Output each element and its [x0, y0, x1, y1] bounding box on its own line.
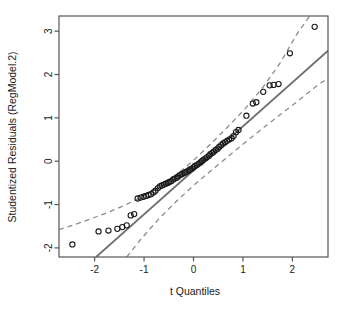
y-axis-title: Studentized Residuals (RegModel.2) — [6, 51, 18, 222]
y-axis-tick-label: -2 — [44, 243, 55, 252]
x-axis-tick-label: 2 — [290, 264, 296, 275]
y-axis-tick-label: 2 — [44, 71, 55, 77]
chart-background — [0, 0, 344, 309]
x-axis-tick-label: 0 — [191, 264, 197, 275]
y-axis-tick-label: 1 — [44, 115, 55, 121]
y-axis-tick-label: -1 — [44, 200, 55, 209]
x-axis-tick-label: -1 — [140, 264, 149, 275]
x-axis-tick-label: 1 — [240, 264, 246, 275]
y-axis-tick-label: 3 — [44, 28, 55, 34]
x-axis-tick-label: -2 — [90, 264, 99, 275]
y-axis-tick-label: 0 — [44, 158, 55, 164]
x-axis-title: t Quantiles — [170, 285, 220, 297]
qq-plot-svg: -2-1012-2-10123 t Quantiles Studentized … — [0, 0, 344, 309]
qq-plot-chart: -2-1012-2-10123 t Quantiles Studentized … — [0, 0, 344, 309]
